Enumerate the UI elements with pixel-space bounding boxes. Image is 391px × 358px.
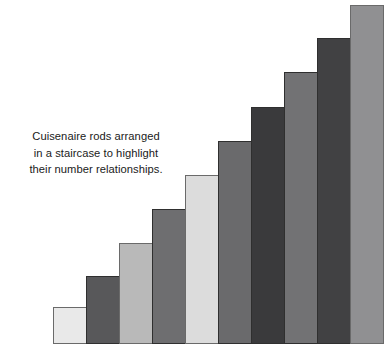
figure-caption: Cuisenaire rods arranged in a staircase … [8, 128, 184, 178]
rod-bar-6 [218, 141, 252, 344]
rod-bar-2 [86, 276, 120, 344]
rod-bar-4 [152, 209, 186, 344]
cuisenaire-rods-figure: Cuisenaire rods arranged in a staircase … [0, 0, 391, 358]
rod-bar-9 [317, 38, 351, 344]
rod-bar-3 [119, 243, 153, 344]
rod-bar-5 [185, 175, 219, 344]
rod-bar-1 [53, 307, 87, 344]
rod-bar-10 [350, 5, 384, 344]
rod-bar-8 [284, 72, 318, 344]
rod-bar-7 [251, 107, 285, 344]
rod-staircase-chart [0, 0, 391, 358]
